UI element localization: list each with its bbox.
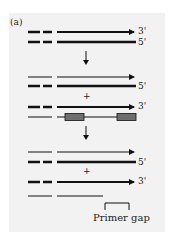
down-arrow-icon (83, 51, 89, 65)
step-2 (28, 77, 136, 121)
rna-primer-box (117, 114, 136, 121)
down-arrow-icon (83, 126, 89, 140)
rna-primer-box (65, 114, 84, 121)
primer-gap-bracket (105, 203, 129, 210)
step-3 (28, 152, 136, 210)
end-label-5prime: 5' (138, 158, 146, 167)
end-label-3prime: 3' (138, 177, 146, 186)
plus-sign: + (83, 167, 91, 176)
step-1 (28, 32, 136, 42)
end-label-3prime: 3' (138, 102, 146, 111)
end-label-5prime: 5' (138, 82, 146, 91)
new-strand-with-primers (28, 114, 136, 121)
end-label-5prime: 5' (138, 38, 146, 47)
end-label-3prime: 3' (138, 27, 146, 36)
primer-gap-label: Primer gap (93, 213, 150, 223)
plus-sign: + (83, 92, 91, 101)
panel-label: (a) (10, 18, 22, 27)
